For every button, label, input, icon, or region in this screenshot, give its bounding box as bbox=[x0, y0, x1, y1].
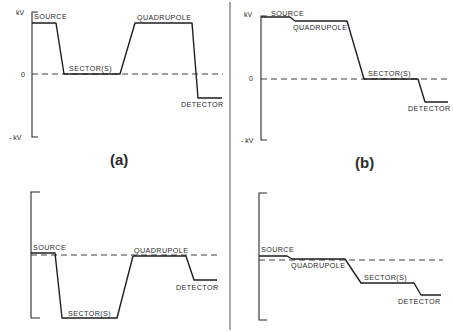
label-quadrupole: QUADRUPOLE bbox=[291, 261, 345, 270]
label-detector: DETECTOR bbox=[176, 283, 219, 292]
panel-tag-b: (b) bbox=[355, 154, 374, 171]
label-source: SOURCE bbox=[33, 243, 66, 252]
label-quadrupole: QUADRUPOLE bbox=[293, 23, 347, 32]
axis-label-top: kV bbox=[16, 9, 25, 16]
y-axis bbox=[32, 12, 38, 137]
panel-d: SOURCE QUADRUPOLE SECTOR(S) DETECTOR bbox=[259, 193, 443, 320]
label-sectors: SECTOR(S) bbox=[69, 64, 112, 73]
label-source: SOURCE bbox=[34, 12, 67, 21]
y-axis bbox=[261, 16, 267, 140]
label-quadrupole: QUADRUPOLE bbox=[137, 13, 191, 22]
label-source: SOURCE bbox=[271, 9, 304, 18]
axis-label-zero: 0 bbox=[249, 75, 253, 82]
panel-tag-a: (a) bbox=[110, 151, 128, 168]
axis-label-zero: 0 bbox=[21, 71, 25, 78]
label-detector: DETECTOR bbox=[408, 104, 451, 113]
panel-b: kV 0 - kV SOURCE QUADRUPOLE SECTOR(S) DE… bbox=[241, 9, 451, 171]
potential-diagram-figure: kV 0 - kV SOURCE SECTOR(S) QUADRUPOLE DE… bbox=[0, 0, 453, 332]
panel-a: kV 0 - kV SOURCE SECTOR(S) QUADRUPOLE DE… bbox=[9, 9, 224, 168]
label-sectors: SECTOR(S) bbox=[368, 69, 411, 78]
label-detector: DETECTOR bbox=[398, 297, 441, 306]
potential-trace bbox=[32, 23, 222, 98]
label-quadrupole: QUADRUPOLE bbox=[134, 246, 188, 255]
panel-c: SOURCE SECTOR(S) QUADRUPOLE DETECTOR bbox=[31, 192, 221, 318]
axis-label-top: kV bbox=[244, 11, 253, 18]
label-source: SOURCE bbox=[261, 245, 294, 254]
potential-trace bbox=[259, 256, 441, 295]
label-sectors: SECTOR(S) bbox=[68, 309, 111, 318]
axis-label-bottom: - kV bbox=[9, 134, 22, 141]
label-detector: DETECTOR bbox=[181, 100, 224, 109]
label-sectors: SECTOR(S) bbox=[364, 273, 407, 282]
potential-trace bbox=[261, 17, 448, 102]
axis-label-bottom: - kV bbox=[241, 137, 254, 144]
